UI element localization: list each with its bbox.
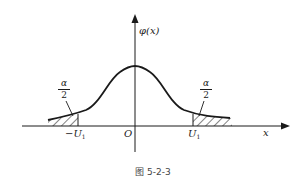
- right-tail-two: 2: [200, 90, 212, 100]
- left-cut-label: −U1: [65, 129, 86, 140]
- x-axis-label: x: [263, 128, 269, 138]
- right-tail-area-label: α 2: [200, 79, 212, 100]
- y-axis-arrow-icon: [132, 14, 139, 23]
- left-tail-alpha: α: [58, 79, 70, 90]
- right-cut-subscript: 1: [196, 133, 200, 140]
- left-cut-subscript: 1: [82, 133, 86, 140]
- origin-label: O: [124, 129, 132, 139]
- left-tail-two: 2: [58, 90, 70, 100]
- x-axis-arrow-icon: [281, 123, 290, 130]
- right-tail-leader-line: [199, 101, 204, 116]
- figure-caption: 图 5-2-3: [0, 165, 306, 178]
- left-cut-text: −U: [65, 128, 82, 139]
- y-axis-label: φ(x): [139, 26, 159, 36]
- right-cut-label: U1: [188, 129, 200, 140]
- left-tail-area-label: α 2: [58, 79, 70, 100]
- left-tail-leader-line: [66, 101, 73, 116]
- right-tail-alpha: α: [200, 79, 212, 90]
